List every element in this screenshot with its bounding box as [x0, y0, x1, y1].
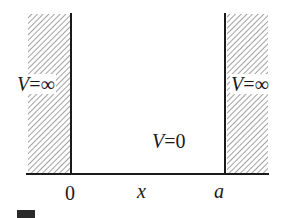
- equals-sign: =: [243, 73, 254, 95]
- equals-sign: =: [164, 130, 175, 152]
- potential-symbol: V: [152, 130, 164, 152]
- potential-symbol: V: [17, 73, 29, 95]
- equals-sign: =: [29, 73, 40, 95]
- zero-value: 0: [176, 130, 186, 152]
- tick-label-zero: 0: [65, 183, 75, 203]
- well-potential-label: V=0: [152, 131, 186, 151]
- infinity-value: ∞: [41, 73, 55, 95]
- tick-label-a: a: [214, 181, 224, 201]
- cropped-caption-marker: [17, 210, 35, 218]
- potential-symbol: V: [231, 73, 243, 95]
- infinite-square-well-diagram: V=∞ V=∞ V=0 0 x a: [0, 0, 290, 218]
- tick-label-x: x: [137, 181, 146, 201]
- infinity-value: ∞: [255, 73, 269, 95]
- right-potential-label: V=∞: [230, 74, 270, 94]
- left-potential-label: V=∞: [16, 74, 56, 94]
